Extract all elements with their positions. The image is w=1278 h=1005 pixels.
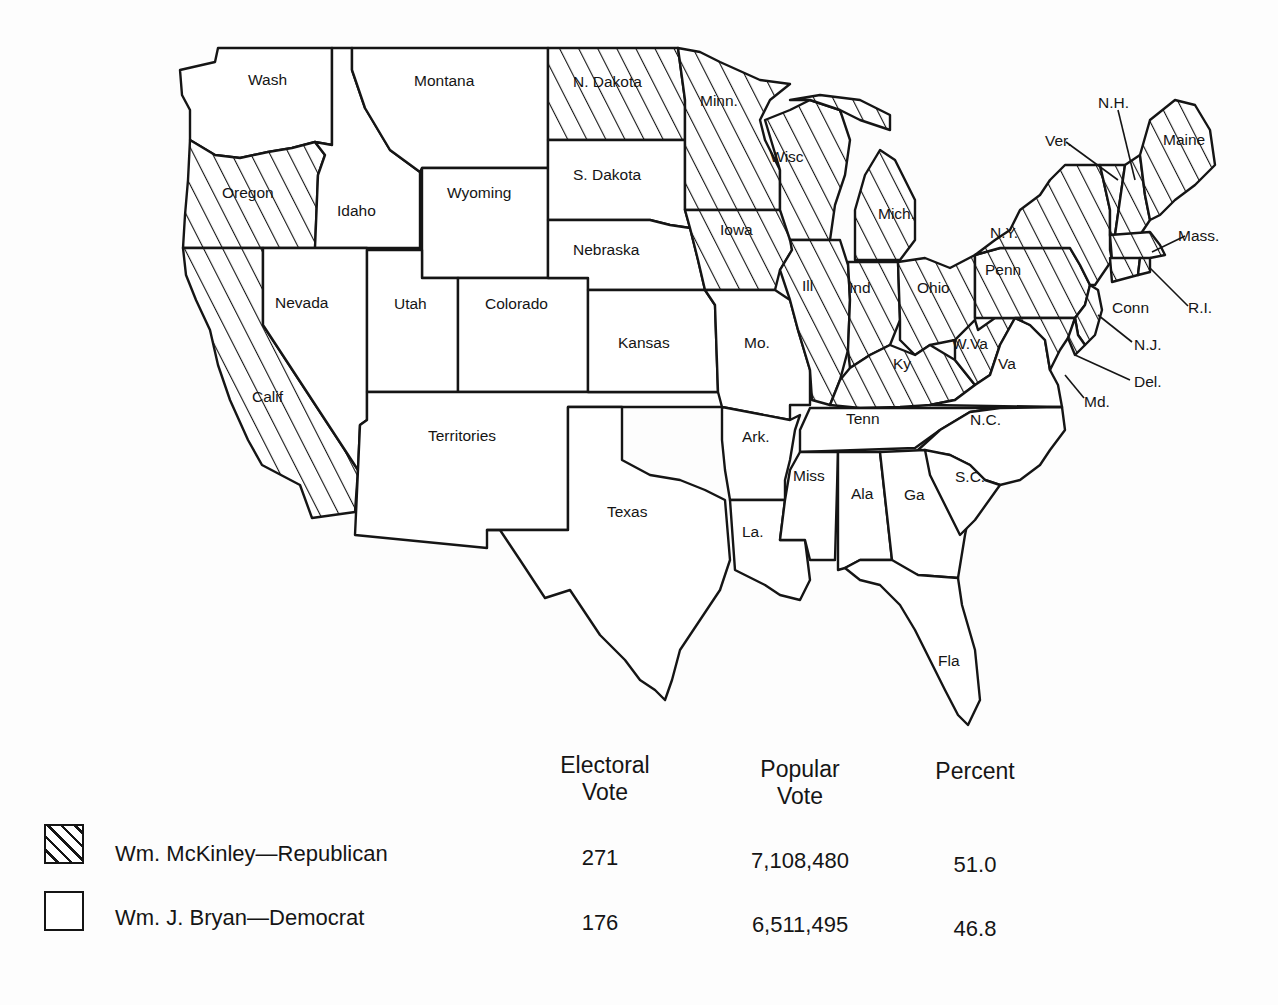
label-mn: Minn. (700, 92, 738, 109)
state-ct (1110, 258, 1140, 282)
label-tx: Texas (607, 503, 648, 520)
label-wa: Wash (248, 71, 287, 88)
label-co: Colorado (485, 295, 548, 312)
state-pa (975, 248, 1090, 318)
label-de: Del. (1134, 373, 1162, 390)
electoral-mckinley: 271 (560, 845, 640, 871)
label-or: Oregon (222, 184, 274, 201)
label-ne: Nebraska (573, 241, 640, 258)
label-id: Idaho (337, 202, 376, 219)
label-terr: Territories (428, 427, 496, 444)
header-popular-vote: Popular Vote (740, 756, 860, 810)
state-wa (180, 48, 332, 158)
swatch-republican-hatched (44, 824, 84, 864)
label-sd: S. Dakota (573, 166, 641, 183)
label-al: Ala (851, 485, 874, 502)
state-ri (1138, 258, 1150, 275)
label-in: Ind (849, 279, 871, 296)
label-nc: N.C. (970, 411, 1001, 428)
header-percent: Percent (915, 758, 1035, 785)
label-ar: Ark. (742, 428, 770, 445)
label-ny: N.Y. (990, 224, 1018, 241)
label-ga: Ga (904, 486, 925, 503)
label-sc: S.C. (955, 468, 985, 485)
popular-mckinley: 7,108,480 (725, 848, 875, 874)
label-ut: Utah (394, 295, 427, 312)
label-nv: Nevada (275, 294, 329, 311)
label-vt: Ver. (1045, 132, 1072, 149)
label-ia: Iowa (720, 221, 753, 238)
label-ks: Kansas (618, 334, 670, 351)
state-fl (845, 560, 980, 725)
label-ca: Calif (252, 388, 284, 405)
label-la: La. (742, 523, 764, 540)
candidate-mckinley: Wm. McKinley—Republican (115, 841, 388, 867)
label-pa: Penn (985, 261, 1021, 278)
election-map: Wash Oregon Calif Idaho Nevada Montana W… (0, 0, 1278, 740)
label-mi: Mich. (878, 205, 915, 222)
label-mt: Montana (414, 72, 475, 89)
label-mo: Mo. (744, 334, 770, 351)
percent-bryan: 46.8 (935, 916, 1015, 942)
label-md: Md. (1084, 393, 1110, 410)
label-wy: Wyoming (447, 184, 511, 201)
label-wi: Wisc (770, 148, 804, 165)
label-oh: Ohio (917, 279, 950, 296)
swatch-democrat-blank (44, 891, 84, 931)
label-il: Ill (802, 277, 813, 294)
state-ma (1110, 232, 1165, 260)
label-tn: Tenn (846, 410, 880, 427)
popular-bryan: 6,511,495 (725, 912, 875, 938)
label-nj: N.J. (1134, 336, 1162, 353)
label-ms: Miss (793, 467, 825, 484)
electoral-bryan: 176 (560, 910, 640, 936)
state-me (1140, 100, 1215, 220)
header-electoral-vote: Electoral Vote (545, 752, 665, 806)
legend-table: Electoral Vote Popular Vote Percent Wm. … (0, 740, 1278, 1005)
label-wv: W.Va (952, 335, 988, 352)
label-ct: Conn (1112, 299, 1149, 316)
percent-mckinley: 51.0 (935, 852, 1015, 878)
label-me: Maine (1163, 131, 1205, 148)
label-ky: Ky (893, 355, 911, 372)
candidate-bryan: Wm. J. Bryan—Democrat (115, 905, 364, 931)
label-nd: N. Dakota (573, 73, 642, 90)
label-va: Va (998, 355, 1016, 372)
label-nh: N.H. (1098, 94, 1129, 111)
label-fl: Fla (938, 652, 960, 669)
state-sd (548, 140, 690, 228)
label-ri: R.I. (1188, 299, 1212, 316)
state-nd (548, 48, 685, 140)
